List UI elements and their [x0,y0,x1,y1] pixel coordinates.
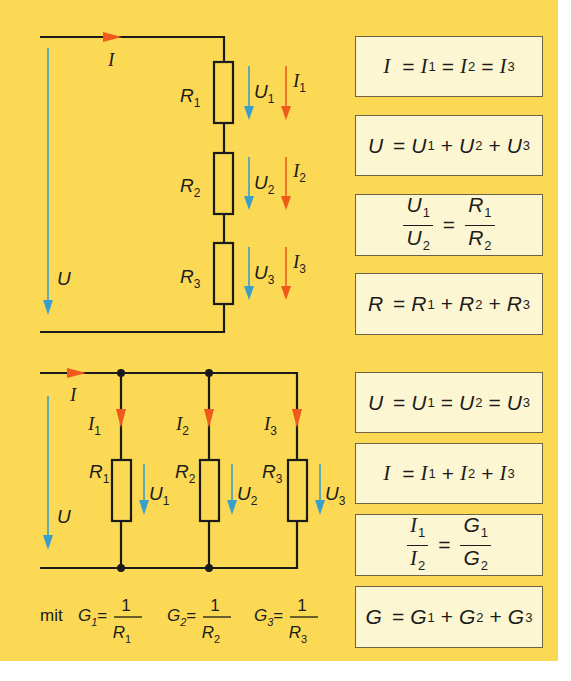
series-total-voltage-label: U [57,268,71,289]
svg-text:1: 1 [121,596,130,615]
series-resistor-3 [214,243,233,304]
parallel-resistor-3 [288,460,307,521]
formula-parallel-voltage: U= U1= U2= U3 [355,372,543,433]
conductance-note: mit G1= 1 R1 G2= 1 R2 G3= 1 R3 [40,596,318,645]
parallel-current-1-label: I1 [87,413,101,438]
formula-parallel-current: I= I1+ I2+ I3 [355,443,543,504]
series-current-arrow-icon [103,32,122,42]
parallel-total-current-label: I [69,384,78,405]
svg-text:R2: R2 [202,623,220,645]
circuit-diagrams: I U R1 R2 R3 U1 U2 U3 I1 I2 I3 I U [0,0,571,681]
conductance-note-prefix: mit [40,606,63,625]
formula-series-current: I= I1= I2= I3 [355,36,543,97]
svg-text:1: 1 [210,596,219,615]
series-total-current-label: I [107,49,116,70]
parallel-resistor-2-label: R2 [175,461,196,486]
svg-text:R3: R3 [289,623,307,645]
series-current-1-label: I1 [292,70,306,95]
formula-parallel-current-ratio: I1I2 = G1G2 [355,514,543,576]
conductance-g1: G1= 1 R1 [78,596,142,645]
series-resistor-2 [214,153,233,214]
series-resistor-1 [214,62,233,123]
series-current-2-label: I2 [292,160,306,185]
formula-parallel-conductance: G= G1+ G2+ G3 [355,586,543,648]
parallel-total-voltage-label: U [57,506,71,527]
svg-text:G2=: G2= [167,606,196,628]
conductance-g2: G2= 1 R2 [167,596,231,645]
parallel-current-2-label: I2 [175,413,189,438]
parallel-resistor-3-label: R3 [262,461,283,486]
parallel-wire [40,373,297,568]
parallel-current-3-label: I3 [263,413,277,438]
svg-text:R1: R1 [113,623,131,645]
parallel-current-arrow-icon [67,368,86,378]
formula-series-voltage: U= U1+ U2+ U3 [355,115,543,176]
series-resistor-3-label: R3 [180,266,201,291]
formula-series-voltage-ratio: U1U2 = R1R2 [355,194,543,256]
series-voltage-1-label: U1 [254,81,275,106]
series-resistor-1-label: R1 [180,85,201,110]
series-voltage-3-label: U3 [254,262,275,287]
conductance-g3: G3= 1 R3 [254,596,318,645]
parallel-voltage-3-label: U3 [325,483,346,508]
parallel-voltage-1-label: U1 [149,483,170,508]
series-voltage-2-label: U2 [254,172,275,197]
formula-series-resistance: R= R1+ R2+ R3 [355,273,543,335]
svg-text:G3=: G3= [254,606,283,628]
svg-text:1: 1 [297,596,306,615]
series-voltage-arrow-icon [43,48,53,315]
parallel-resistor-1-label: R1 [89,461,110,486]
parallel-resistor-2 [200,460,219,521]
parallel-resistor-1 [112,460,131,521]
parallel-voltage-2-label: U2 [237,483,258,508]
svg-text:G1=: G1= [78,606,107,628]
series-current-3-label: I3 [292,251,306,276]
parallel-voltage-arrow-icon [43,396,53,550]
series-resistor-2-label: R2 [180,175,201,200]
